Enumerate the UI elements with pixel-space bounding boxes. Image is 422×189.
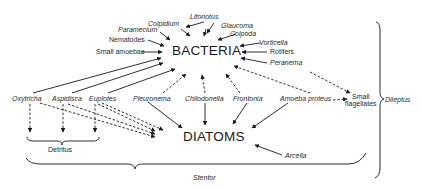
node-frontonia: Frontonia [233,95,263,103]
node-euplotes: Euplotes [89,95,116,103]
node-aspidisca: Aspidisca [52,95,82,103]
node-nematodes: Nematodes [109,36,145,44]
node-litonotus: Litonotus [190,13,218,21]
arrow-litonotus-colpidium [186,22,204,27]
node-pleuronema: Pleuronema [133,95,171,103]
node-bacteria: BACTERIA [172,44,241,58]
node-paramecium: Paramecium [118,26,157,34]
group-stentor: Stentor [193,174,216,182]
node-peranema: Peranema [270,59,302,67]
node-small-flagellates-line2: flagellates [345,100,377,108]
arrow-litonotus-glaucoma [207,23,214,33]
node-colpoda: Colpoda [230,30,256,38]
node-arcella: Arcella [285,152,306,160]
node-small-amoebae: Small amoebae [96,48,145,56]
node-vorticella: Vorticella [259,39,288,47]
node-detritus: Detritus [48,146,72,154]
group-dileptus: Dileptus [385,96,410,104]
node-rotifers: Rotifers [270,48,294,56]
node-oxytricha: Oxytricha [12,95,42,103]
node-diatoms: DIATOMS [183,130,245,144]
node-glaucoma: Glaucoma [221,22,253,30]
node-amoeba-proteus: Amoeba proteus [280,95,331,103]
node-chilodonella: Chilodonella [185,95,224,103]
